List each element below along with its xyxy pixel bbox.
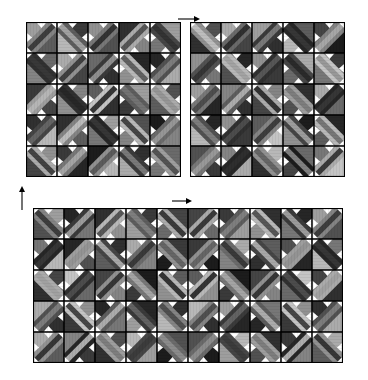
figure-canvas: Grayscale diagonal-band tiling pattern T… [0,0,368,380]
top-left-panel [26,22,181,177]
bottom-axis-arrow [172,196,192,206]
top-right-panel [190,22,345,177]
left-axis-arrow [17,186,27,210]
top-axis-arrow [178,14,200,24]
bottom-panel [33,208,343,363]
